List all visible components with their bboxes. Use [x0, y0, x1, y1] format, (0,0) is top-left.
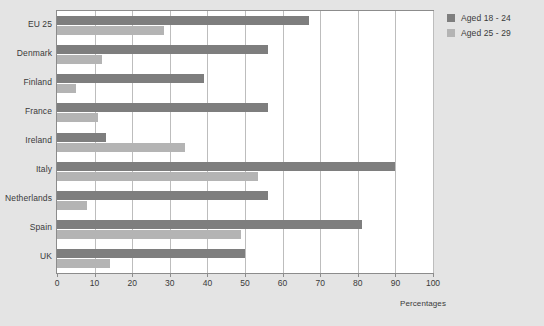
x-tick-mark — [170, 273, 171, 277]
category-label: Spain — [0, 222, 52, 232]
category-label: Ireland — [0, 135, 52, 145]
x-tick-mark — [433, 273, 434, 277]
bar — [57, 230, 241, 239]
legend-swatch-icon — [447, 14, 455, 22]
x-axis: 0102030405060708090100 — [56, 273, 434, 293]
bar — [57, 103, 268, 112]
x-tick-label: 70 — [315, 278, 324, 288]
bar — [57, 249, 245, 258]
x-tick-label: 80 — [353, 278, 362, 288]
x-tick-label: 0 — [55, 278, 60, 288]
x-tick-mark — [95, 273, 96, 277]
grouped-bar-chart: EU 25DenmarkFinlandFranceIrelandItalyNet… — [0, 0, 544, 326]
bar — [57, 133, 106, 142]
x-tick-label: 10 — [90, 278, 99, 288]
gridline — [433, 11, 434, 273]
legend: Aged 18 - 24Aged 25 - 29 — [447, 11, 539, 41]
bar — [57, 74, 204, 83]
bar — [57, 162, 395, 171]
bar — [57, 16, 309, 25]
x-tick-label: 30 — [165, 278, 174, 288]
bar — [57, 45, 268, 54]
x-tick-label: 60 — [278, 278, 287, 288]
x-tick-label: 50 — [240, 278, 249, 288]
category-label: UK — [0, 251, 52, 261]
bars-layer — [57, 11, 433, 273]
plot-area — [56, 10, 434, 274]
x-tick-mark — [283, 273, 284, 277]
x-axis-title: Percentages — [400, 299, 446, 308]
legend-label: Aged 25 - 29 — [461, 28, 511, 38]
x-tick-label: 90 — [391, 278, 400, 288]
bar — [57, 113, 98, 122]
legend-label: Aged 18 - 24 — [461, 13, 511, 23]
bar — [57, 191, 268, 200]
bar — [57, 259, 110, 268]
category-label: Netherlands — [0, 193, 52, 203]
legend-item[interactable]: Aged 18 - 24 — [447, 11, 539, 24]
category-label: EU 25 — [0, 19, 52, 29]
bar — [57, 84, 76, 93]
x-tick-mark — [395, 273, 396, 277]
x-tick-mark — [320, 273, 321, 277]
x-tick-mark — [132, 273, 133, 277]
x-tick-label: 20 — [127, 278, 136, 288]
x-tick-label: 40 — [203, 278, 212, 288]
x-tick-mark — [207, 273, 208, 277]
category-label: Finland — [0, 77, 52, 87]
x-tick-mark — [57, 273, 58, 277]
x-tick-label: 100 — [426, 278, 440, 288]
bar — [57, 220, 362, 229]
bar — [57, 143, 185, 152]
x-tick-mark — [245, 273, 246, 277]
category-axis-labels: EU 25DenmarkFinlandFranceIrelandItalyNet… — [0, 10, 52, 272]
category-label: France — [0, 106, 52, 116]
bar — [57, 55, 102, 64]
bar — [57, 26, 164, 35]
legend-swatch-icon — [447, 29, 455, 37]
legend-item[interactable]: Aged 25 - 29 — [447, 26, 539, 39]
category-label: Italy — [0, 164, 52, 174]
bar — [57, 172, 258, 181]
x-tick-mark — [358, 273, 359, 277]
bar — [57, 201, 87, 210]
category-label: Denmark — [0, 48, 52, 58]
